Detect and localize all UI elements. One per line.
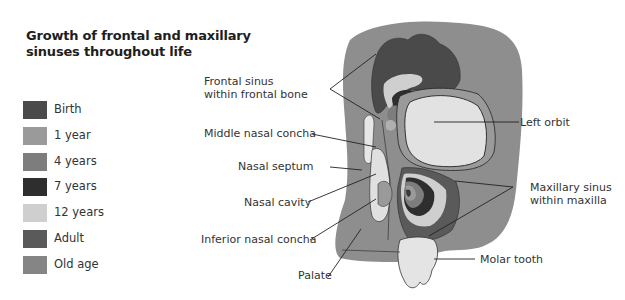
label-nasal-cavity: Nasal cavity <box>244 196 311 209</box>
label-nasal-septum: Nasal septum <box>238 160 313 173</box>
label-maxillary-sinus-line2: within maxilla <box>530 194 612 207</box>
label-frontal-sinus-line2: within frontal bone <box>204 88 308 101</box>
inferior-nasal-concha-shape <box>378 181 392 206</box>
label-middle-nasal-concha: Middle nasal concha <box>204 127 316 140</box>
label-palate: Palate <box>298 269 332 282</box>
molar-tooth-shape <box>398 237 438 288</box>
label-maxillary-sinus-line1: Maxillary sinus <box>530 181 612 194</box>
label-inferior-nasal-concha: Inferior nasal concha <box>201 233 316 246</box>
label-maxillary-sinus: Maxillary sinus within maxilla <box>530 181 612 207</box>
label-left-orbit: Left orbit <box>520 116 570 129</box>
label-frontal-sinus-line1: Frontal sinus <box>204 75 308 88</box>
label-frontal-sinus: Frontal sinus within frontal bone <box>204 75 308 101</box>
label-molar-tooth: Molar tooth <box>480 253 543 266</box>
left-orbit <box>405 96 487 167</box>
